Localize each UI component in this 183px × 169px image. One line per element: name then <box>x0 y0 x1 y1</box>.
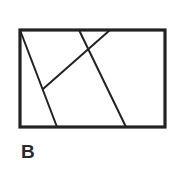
cross-diagonal-line <box>43 30 110 89</box>
right-slant-line <box>79 30 126 127</box>
diagram-canvas: B <box>0 0 183 169</box>
figure-label: B <box>21 142 35 162</box>
left-slant-line <box>20 30 57 127</box>
